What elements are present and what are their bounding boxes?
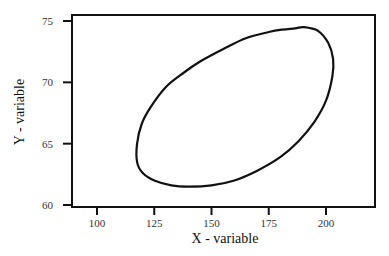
x-tick-label: 200 [318, 217, 335, 229]
x-axis-title: X - variable [192, 231, 259, 246]
y-tick-label: 65 [42, 138, 54, 150]
x-axis-ticks: 100125150175200 [89, 207, 335, 229]
y-axis-ticks: 60657075 [42, 15, 72, 211]
x-tick-label: 175 [261, 217, 278, 229]
x-tick-label: 125 [146, 217, 163, 229]
y-tick-label: 70 [42, 76, 54, 88]
y-tick-label: 60 [42, 199, 54, 211]
y-tick-label: 75 [42, 15, 54, 27]
x-tick-label: 100 [89, 217, 106, 229]
scatter-ellipse-chart: 60657075 100125150175200 X - variable Y … [0, 0, 389, 256]
y-axis-title: Y - variable [12, 79, 27, 145]
x-tick-label: 150 [203, 217, 220, 229]
ellipse-contour [136, 27, 333, 187]
